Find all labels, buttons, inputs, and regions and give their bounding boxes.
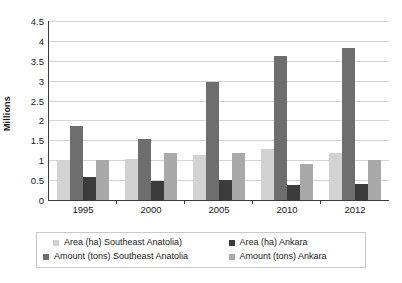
bar — [96, 160, 109, 200]
bar — [125, 159, 138, 200]
y-axis-title: Millions — [2, 96, 16, 131]
bar — [83, 177, 96, 200]
bar — [151, 181, 164, 200]
bar — [287, 185, 300, 201]
legend-item[interactable]: Area (ha) Southeast Anatolia) — [43, 237, 221, 248]
plot-area — [48, 21, 389, 201]
bar-group — [253, 21, 321, 200]
legend-swatch-icon — [229, 254, 235, 260]
bar-group — [117, 21, 185, 200]
legend-item[interactable]: Amount (tons) Southeast Anatolia — [43, 251, 221, 262]
bar — [193, 155, 206, 200]
x-axis-tick-label: 2012 — [321, 204, 389, 215]
bar — [261, 149, 274, 200]
y-axis-tick-label: 0.5 — [18, 175, 44, 186]
legend-label: Area (ha) Southeast Anatolia) — [64, 237, 182, 248]
bar-group — [185, 21, 253, 200]
bar — [206, 82, 219, 200]
x-axis-tick-label: 2010 — [253, 204, 321, 215]
bar-groups — [49, 21, 389, 200]
bar — [138, 139, 151, 200]
legend-label: Area (ha) Ankara — [240, 237, 308, 248]
y-axis-tick-label: 4 — [18, 35, 44, 46]
legend-item[interactable]: Area (ha) Ankara — [221, 237, 359, 248]
legend-swatch-icon — [43, 254, 49, 260]
legend-swatch-icon — [229, 240, 235, 246]
bar-chart-figure: Millions 00.511.522.533.544.5 1995200020… — [0, 0, 402, 283]
bar — [368, 160, 381, 200]
bar — [342, 48, 355, 200]
legend-label: Amount (tons) Southeast Anatolia — [54, 251, 188, 262]
y-axis-tick-label: 0 — [18, 195, 44, 206]
y-axis-tick-labels: 00.511.522.533.544.5 — [18, 21, 44, 200]
bar — [70, 126, 83, 200]
y-axis-tick-label: 3.5 — [18, 55, 44, 66]
bar — [57, 160, 70, 200]
x-axis-tick-label: 2005 — [185, 204, 253, 215]
y-axis-tick-label: 2.5 — [18, 95, 44, 106]
legend-swatch-icon — [53, 240, 59, 246]
chart-legend: Area (ha) Southeast Anatolia)Area (ha) A… — [36, 232, 366, 268]
bar — [219, 180, 232, 200]
y-axis-tick-label: 3 — [18, 75, 44, 86]
bar — [300, 164, 313, 200]
bar — [274, 56, 287, 200]
y-axis-tick-label: 1 — [18, 155, 44, 166]
bar-group — [49, 21, 117, 200]
y-axis-tick-label: 1.5 — [18, 135, 44, 146]
legend-item[interactable]: Amount (tons) Ankara — [221, 251, 359, 262]
y-axis-tick-label: 4.5 — [18, 16, 44, 27]
y-axis-tick-label: 2 — [18, 115, 44, 126]
x-axis-tick-label: 1995 — [49, 204, 117, 215]
bar-group — [321, 21, 389, 200]
x-axis-tick-label: 2000 — [117, 204, 185, 215]
bar — [232, 153, 245, 200]
legend-label: Amount (tons) Ankara — [240, 251, 327, 262]
x-axis-tick-labels: 19952000200520102012 — [49, 204, 389, 215]
bar — [355, 184, 368, 200]
bar — [164, 153, 177, 200]
bar — [329, 153, 342, 200]
